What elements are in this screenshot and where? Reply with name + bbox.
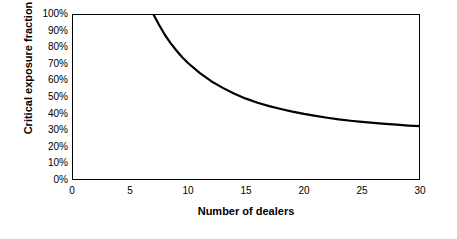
critical-exposure-curve: [72, 14, 420, 180]
y-tick-0: 0%: [26, 175, 68, 185]
x-tick-20: 20: [292, 186, 316, 196]
x-axis-title: Number of dealers: [72, 205, 420, 217]
y-tick-1: 10%: [26, 158, 68, 168]
x-tick-25: 25: [350, 186, 374, 196]
y-axis-title-wrap: Critical exposure fraction: [10, 10, 28, 190]
chart-container: 100% 90% 80% 70% 60% 50% 40% 30% 20% 10%…: [0, 0, 457, 239]
x-tick-5: 5: [118, 186, 142, 196]
x-axis-tick-labels: 0 5 10 15 20 25 30: [0, 186, 457, 200]
x-tick-30: 30: [408, 186, 432, 196]
x-tick-0: 0: [60, 186, 84, 196]
x-tick-10: 10: [176, 186, 200, 196]
y-axis-title: Critical exposure fraction: [22, 0, 34, 148]
x-tick-15: 15: [234, 186, 258, 196]
